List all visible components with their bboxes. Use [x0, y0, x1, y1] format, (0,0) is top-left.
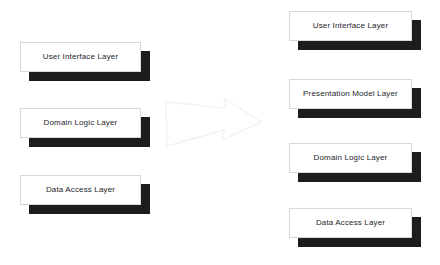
layer-box[interactable]: Data Access Layer [289, 208, 412, 238]
layer-box[interactable]: Presentation Model Layer [289, 79, 412, 109]
layer-box[interactable]: User Interface Layer [20, 42, 141, 72]
layer-box-label: Domain Logic Layer [314, 153, 388, 163]
layer-box[interactable]: User Interface Layer [289, 11, 412, 41]
layer-box-label: User Interface Layer [43, 52, 118, 62]
architecture-diagram: User Interface LayerDomain Logic LayerDa… [0, 0, 440, 265]
layer-box-label: Domain Logic Layer [44, 118, 118, 128]
layer-box-label: User Interface Layer [313, 21, 388, 31]
layer-box-label: Presentation Model Layer [303, 89, 398, 99]
layer-box[interactable]: Data Access Layer [20, 175, 141, 205]
layer-box[interactable]: Domain Logic Layer [289, 143, 412, 173]
transformation-arrow [164, 94, 264, 156]
layer-box-label: Data Access Layer [316, 218, 385, 228]
arrow-shape [166, 98, 261, 146]
layer-box[interactable]: Domain Logic Layer [20, 108, 141, 138]
layer-box-label: Data Access Layer [46, 185, 115, 195]
